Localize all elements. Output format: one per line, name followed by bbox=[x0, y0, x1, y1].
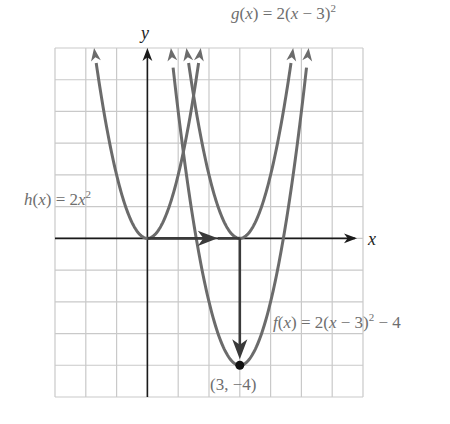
f-suffix: − 4 bbox=[374, 313, 401, 332]
axes bbox=[55, 48, 357, 397]
vertex-point bbox=[235, 361, 244, 370]
curve-arrow-icon bbox=[302, 48, 312, 61]
h-power: 2 bbox=[86, 188, 92, 200]
coordinate-plane bbox=[0, 0, 450, 424]
curve-arrow-icon bbox=[286, 48, 296, 62]
label-g-equation: g(x) = 2(x − 3)2 bbox=[231, 3, 336, 22]
g-arg: x bbox=[245, 4, 253, 23]
h-arg: x bbox=[38, 190, 46, 209]
g-func-name: g bbox=[231, 4, 240, 23]
y-axis-label: y bbox=[141, 24, 149, 42]
vertex-dot bbox=[235, 361, 244, 370]
curve-arrow-icon bbox=[91, 48, 101, 62]
curve-arrow-icon bbox=[183, 48, 193, 62]
vertex-label: (3, −4) bbox=[210, 376, 256, 393]
curve-arrow-icon bbox=[194, 48, 204, 62]
curve-arrow-icon bbox=[167, 48, 177, 61]
f-rhs: = 2( bbox=[297, 313, 329, 332]
h-rhs: = 2 bbox=[51, 190, 78, 209]
g-rhs: = 2( bbox=[258, 4, 290, 23]
label-f-equation: f(x) = 2(x − 3)2 − 4 bbox=[273, 312, 401, 331]
label-h-equation: h(x) = 2x2 bbox=[24, 189, 91, 208]
f-arg: x bbox=[283, 313, 291, 332]
h-func-name: h bbox=[24, 190, 33, 209]
h-var: x bbox=[78, 190, 86, 209]
f-func-name: f bbox=[273, 313, 278, 332]
g-power: 2 bbox=[330, 2, 336, 14]
g-mid: − 3) bbox=[298, 4, 330, 23]
x-axis-label: x bbox=[368, 230, 376, 248]
f-mid: − 3) bbox=[336, 313, 368, 332]
